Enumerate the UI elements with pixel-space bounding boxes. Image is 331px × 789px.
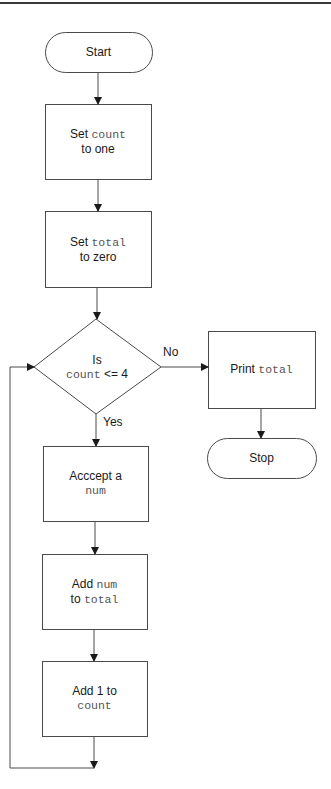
set-total-box xyxy=(46,212,152,288)
start-terminator xyxy=(46,33,153,73)
stop-terminator xyxy=(208,439,317,479)
edge-label-yes: Yes xyxy=(103,415,123,429)
add-num-box xyxy=(43,555,148,630)
decision-diamond xyxy=(34,319,161,414)
set-count-box xyxy=(46,105,152,180)
add-one-box xyxy=(43,662,148,737)
edge-label-no: No xyxy=(163,345,178,359)
accept-num-box xyxy=(44,447,149,522)
print-total-box xyxy=(209,332,316,409)
flowchart-canvas xyxy=(0,0,331,789)
